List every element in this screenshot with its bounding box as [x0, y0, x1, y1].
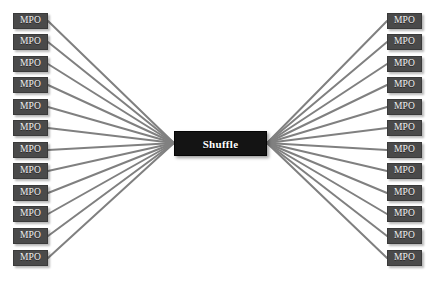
edge-right-9 [267, 143, 387, 193]
mpo-node-left-4[interactable]: MPO [13, 77, 48, 93]
mpo-node-left-5[interactable]: MPO [13, 99, 48, 115]
mpo-node-right-10[interactable]: MPO [387, 206, 422, 222]
mpo-node-label: MPO [394, 166, 415, 176]
mpo-node-right-1[interactable]: MPO [387, 13, 422, 29]
mpo-node-label: MPO [20, 231, 41, 241]
shuffle-hub-label: Shuffle [203, 138, 239, 150]
mpo-node-right-11[interactable]: MPO [387, 228, 422, 244]
edge-left-12 [48, 143, 174, 258]
mpo-node-label: MPO [20, 145, 41, 155]
mpo-node-label: MPO [20, 59, 41, 69]
mpo-node-left-12[interactable]: MPO [13, 250, 48, 266]
edge-left-9 [48, 143, 174, 193]
diagram-canvas: MPOMPOMPOMPOMPOMPOMPOMPOMPOMPOMPOMPO MPO… [0, 0, 436, 290]
mpo-node-label: MPO [394, 123, 415, 133]
mpo-node-right-7[interactable]: MPO [387, 142, 422, 158]
mpo-node-left-3[interactable]: MPO [13, 56, 48, 72]
mpo-node-label: MPO [394, 188, 415, 198]
mpo-node-left-1[interactable]: MPO [13, 13, 48, 29]
mpo-node-label: MPO [394, 59, 415, 69]
mpo-node-label: MPO [394, 145, 415, 155]
mpo-node-left-2[interactable]: MPO [13, 34, 48, 50]
mpo-node-right-6[interactable]: MPO [387, 120, 422, 136]
mpo-node-label: MPO [20, 253, 41, 263]
mpo-node-right-2[interactable]: MPO [387, 34, 422, 50]
mpo-node-left-9[interactable]: MPO [13, 185, 48, 201]
mpo-node-right-8[interactable]: MPO [387, 163, 422, 179]
mpo-node-right-4[interactable]: MPO [387, 77, 422, 93]
mpo-node-left-6[interactable]: MPO [13, 120, 48, 136]
mpo-node-label: MPO [20, 209, 41, 219]
mpo-node-label: MPO [394, 253, 415, 263]
mpo-node-label: MPO [394, 16, 415, 26]
mpo-node-label: MPO [394, 209, 415, 219]
mpo-node-left-11[interactable]: MPO [13, 228, 48, 244]
mpo-node-left-7[interactable]: MPO [13, 142, 48, 158]
edge-left-10 [48, 143, 174, 214]
mpo-node-right-9[interactable]: MPO [387, 185, 422, 201]
mpo-node-label: MPO [20, 188, 41, 198]
mpo-node-label: MPO [20, 16, 41, 26]
edge-right-2 [267, 42, 387, 143]
mpo-node-label: MPO [20, 37, 41, 47]
mpo-node-label: MPO [394, 231, 415, 241]
mpo-node-label: MPO [20, 123, 41, 133]
edge-right-12 [267, 143, 387, 258]
mpo-node-right-5[interactable]: MPO [387, 99, 422, 115]
mpo-node-label: MPO [20, 80, 41, 90]
mpo-node-label: MPO [394, 80, 415, 90]
edge-right-10 [267, 143, 387, 214]
mpo-node-left-8[interactable]: MPO [13, 163, 48, 179]
mpo-node-label: MPO [20, 102, 41, 112]
mpo-node-label: MPO [394, 37, 415, 47]
mpo-node-label: MPO [20, 166, 41, 176]
mpo-node-right-12[interactable]: MPO [387, 250, 422, 266]
shuffle-hub[interactable]: Shuffle [174, 131, 267, 156]
mpo-node-label: MPO [394, 102, 415, 112]
mpo-node-left-10[interactable]: MPO [13, 206, 48, 222]
mpo-node-right-3[interactable]: MPO [387, 56, 422, 72]
edge-left-2 [48, 42, 174, 143]
